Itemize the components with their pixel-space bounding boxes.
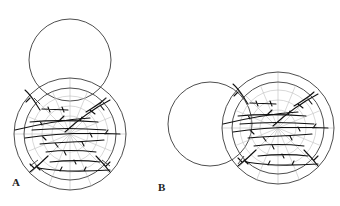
panel-a-vascular-disc — [14, 78, 126, 190]
panel-a-label: A — [12, 176, 20, 188]
panel-b-vascular-disc — [222, 72, 334, 184]
figure-canvas — [0, 0, 340, 206]
panel-a — [14, 19, 126, 190]
panel-b — [168, 72, 334, 184]
panel-b-label: B — [158, 181, 165, 193]
